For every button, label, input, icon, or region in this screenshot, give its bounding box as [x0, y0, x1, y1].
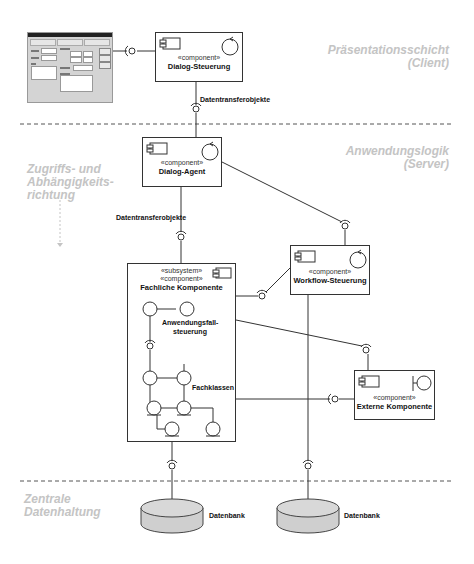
label-datentransferobjekte-mid: Datentransferobjekte: [116, 214, 186, 221]
component-icon: [355, 371, 436, 421]
direction-arrow-icon: [57, 243, 63, 247]
component-dialog-agent: «component» Dialog-Agent: [142, 137, 222, 187]
label-datentransferobjekte-top: Datentransferobjekte: [200, 96, 270, 103]
component-dialog-steuerung: «component» Dialog-Steuerung: [155, 32, 243, 82]
component-icon: [156, 33, 244, 83]
subsystem-fachliche-komponente: «subsystem» «component» Fachliche Kompon…: [127, 263, 236, 442]
label-fachklassen: Fachklassen: [192, 384, 234, 391]
label-datenbank-1: Datenbank: [209, 512, 245, 519]
interface-ball-socket-icon: [361, 344, 371, 353]
interface-ball-socket-icon: [176, 231, 186, 240]
direction-note: Zugriffs- und Abhängigkeits- richtung: [27, 163, 114, 202]
layer-label-praesentation: Präsentationsschicht (Client): [328, 44, 449, 70]
component-icon: [291, 246, 371, 296]
window-button: [99, 48, 111, 55]
dialog-window-screenshot: [27, 32, 113, 103]
window-tab: [57, 39, 83, 46]
window-button: [99, 55, 111, 62]
component-externe-komponente: «component» Externe Komponente: [354, 370, 435, 420]
component-icon: [143, 138, 223, 188]
interface-ball-socket-icon: [340, 220, 350, 229]
database-1-icon: [141, 499, 203, 533]
database-2-icon: [277, 499, 339, 533]
label-anwendungsfallsteuerung: Anwendungsfall- steuerung: [162, 318, 218, 336]
window-tab: [84, 39, 110, 46]
window-button: [99, 62, 111, 69]
layer-label-datenhaltung: Zentrale Datenhaltung: [24, 493, 101, 519]
label-datenbank-2: Datenbank: [344, 512, 380, 519]
component-workflow-steuerung: «component» Workflow-Steuerung: [290, 245, 370, 295]
interface-ball-socket-icon: [167, 460, 177, 469]
component-icon: [128, 264, 237, 294]
layer-label-anwendungslogik: Anwendungslogik (Server): [346, 145, 449, 171]
window-tab: [30, 39, 56, 46]
interface-ball-socket-icon: [303, 460, 313, 469]
interface-ball-socket-icon: [257, 290, 267, 299]
window-tabs: [28, 37, 112, 46]
